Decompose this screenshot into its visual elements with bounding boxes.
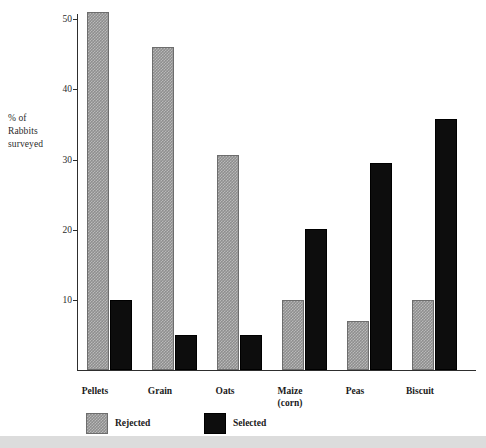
bar-rejected-peas <box>347 321 369 370</box>
bar-group <box>152 14 198 370</box>
bar-selected-oats <box>240 335 262 370</box>
y-tick-label-50: 50 <box>52 14 72 24</box>
bar-group <box>217 14 263 370</box>
bar-group <box>282 14 328 370</box>
bar-rejected-biscuit <box>412 300 434 370</box>
plot-area <box>78 14 476 370</box>
x-category-label-line-1: Biscuit <box>375 385 465 397</box>
y-tick-label-20: 20 <box>52 225 72 235</box>
bar-selected-peas <box>370 163 392 370</box>
legend-swatch-rejected-icon <box>86 413 108 434</box>
bar-selected-biscuit <box>435 119 457 370</box>
y-tick-label-30: 30 <box>52 155 72 165</box>
legend-label-selected: Selected <box>233 418 266 428</box>
bar-selected-maize-corn <box>305 229 327 370</box>
legend-label-rejected: Rejected <box>115 418 150 428</box>
y-tick-mark-30 <box>73 160 77 161</box>
y-axis-title-line-2: Rabbits <box>8 125 60 138</box>
legend-item-rejected: Rejected <box>86 412 150 434</box>
bar-group <box>412 14 458 370</box>
y-tick-mark-20 <box>73 230 77 231</box>
y-axis-title-line-1: % of <box>8 112 60 125</box>
legend-swatch-selected-icon <box>204 413 226 434</box>
y-tick-mark-50 <box>73 19 77 20</box>
bar-chart: % of Rabbits surveyed 50 40 30 20 10 Pel… <box>0 0 486 448</box>
x-category-label-line-2: (corn) <box>245 397 335 409</box>
y-tick-label-40: 40 <box>52 84 72 94</box>
x-axis-line <box>77 370 476 371</box>
bar-rejected-grain <box>152 47 174 370</box>
bottom-strip <box>0 436 486 448</box>
y-axis-title-line-3: surveyed <box>8 138 60 151</box>
bar-group <box>87 14 133 370</box>
bar-rejected-pellets <box>87 12 109 370</box>
y-axis-title: % of Rabbits surveyed <box>8 112 60 151</box>
legend-item-selected: Selected <box>204 412 266 434</box>
y-tick-mark-10 <box>73 300 77 301</box>
bar-selected-grain <box>175 335 197 370</box>
bar-rejected-maize-corn <box>282 300 304 370</box>
bar-rejected-oats <box>217 155 239 370</box>
bar-group <box>347 14 393 370</box>
bar-selected-pellets <box>110 300 132 370</box>
y-tick-label-10: 10 <box>52 295 72 305</box>
x-category-label-biscuit: Biscuit <box>375 385 465 397</box>
y-tick-mark-40 <box>73 89 77 90</box>
